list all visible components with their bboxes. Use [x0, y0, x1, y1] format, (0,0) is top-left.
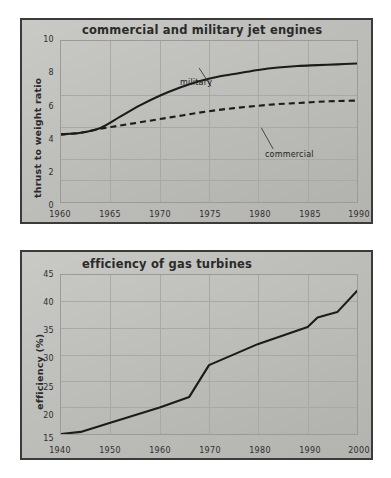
y-tick-35: 35 — [30, 326, 54, 335]
x-tick-1965: 1965 — [93, 210, 127, 219]
y-tick-8: 8 — [30, 68, 54, 77]
y-axis-label-efficiency: efficiency (%) — [34, 334, 45, 410]
x-tick-2000: 2000 — [342, 446, 376, 455]
y-tick-2: 2 — [30, 168, 54, 177]
y-tick-40: 40 — [30, 298, 54, 307]
x-tick-1940: 1940 — [43, 446, 77, 455]
line-efficiency — [61, 291, 357, 434]
chart-title-jet-engines: commercial and military jet engines — [82, 23, 322, 37]
x-tick-1985: 1985 — [293, 210, 327, 219]
x-tick-1960: 1960 — [143, 446, 177, 455]
x-tick-1975: 1975 — [193, 210, 227, 219]
line-military — [61, 64, 357, 135]
plot-area-jet-engines — [60, 40, 358, 203]
leader-line-commercial — [261, 128, 273, 149]
x-tick-1980: 1980 — [243, 210, 277, 219]
y-tick-15: 15 — [30, 434, 54, 443]
series-svg-jet-engines — [61, 41, 357, 202]
plot-area-gas-turbines — [60, 274, 358, 435]
x-tick-1960: 1960 — [43, 210, 77, 219]
chart-panel-jet-engines: commercial and military jet engines thru… — [20, 18, 373, 224]
x-tick-1970: 1970 — [143, 210, 177, 219]
y-tick-20: 20 — [30, 411, 54, 420]
chart-title-gas-turbines: efficiency of gas turbines — [82, 257, 252, 271]
y-tick-25: 25 — [30, 383, 54, 392]
x-tick-1980: 1980 — [243, 446, 277, 455]
y-tick-30: 30 — [30, 354, 54, 363]
x-tick-1950: 1950 — [93, 446, 127, 455]
line-commercial — [61, 101, 357, 135]
x-tick-1970: 1970 — [193, 446, 227, 455]
series-svg-gas-turbines — [61, 275, 357, 434]
annotation-commercial: commercial — [265, 150, 314, 159]
y-tick-4: 4 — [30, 135, 54, 144]
chart-panel-gas-turbines: efficiency of gas turbines efficiency (%… — [20, 250, 373, 460]
y-tick-6: 6 — [30, 102, 54, 111]
annotation-military: military — [180, 78, 212, 87]
x-tick-1990: 1990 — [293, 446, 327, 455]
y-tick-0: 0 — [30, 201, 54, 210]
x-tick-1990: 1990 — [342, 210, 376, 219]
y-tick-45: 45 — [30, 270, 54, 279]
y-tick-10: 10 — [30, 35, 54, 44]
